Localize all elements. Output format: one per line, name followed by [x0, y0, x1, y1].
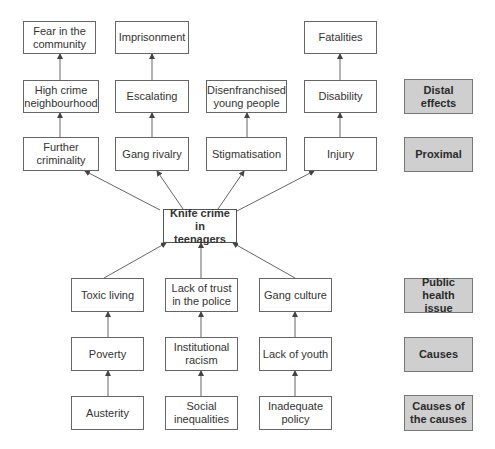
level-label-text: Public health issue — [409, 276, 469, 315]
node-disenfranchised-young-people: Disenfranchised young people — [206, 80, 287, 113]
center-node-label: Knife crime in teenagers — [169, 207, 231, 246]
node-label: Institutional racism — [171, 341, 233, 367]
node-poverty: Poverty — [71, 337, 144, 371]
node-toxic-living: Toxic living — [71, 278, 144, 312]
level-label-causes-of-the-causes: Causes of the causes — [404, 395, 473, 431]
node-gang-rivalry: Gang rivalry — [115, 137, 189, 171]
node-gang-culture: Gang culture — [259, 278, 332, 312]
node-label: Fear in the community — [24, 25, 95, 51]
node-escalating: Escalating — [115, 80, 189, 113]
node-further-criminality: Further criminality — [23, 137, 99, 171]
level-label-text: Distal effects — [405, 84, 472, 110]
node-label: Lack of trust in the police — [171, 282, 233, 308]
node-lack-of-trust-in-the-police: Lack of trust in the police — [165, 278, 238, 312]
node-institutional-racism: Institutional racism — [165, 337, 238, 371]
node-knife-crime-in-teenagers: Knife crime in teenagers — [163, 209, 237, 243]
level-label-distal-effects: Distal effects — [404, 79, 473, 114]
node-social-inequalities: Social inequalities — [165, 396, 238, 430]
node-injury: Injury — [304, 137, 377, 171]
level-label-causes: Causes — [404, 337, 473, 372]
level-label-proximal: Proximal — [404, 137, 473, 172]
node-label: Further criminality — [33, 141, 89, 167]
level-label-text: Proximal — [415, 148, 461, 161]
node-disability: Disability — [304, 80, 377, 113]
node-label: Toxic living — [81, 289, 134, 302]
node-fatalities: Fatalities — [304, 21, 377, 54]
node-label: Inadequate policy — [265, 400, 327, 426]
node-fear-in-the-community: Fear in the community — [23, 21, 96, 54]
node-label: Social inequalities — [171, 400, 233, 426]
node-lack-of-youth: Lack of youth — [259, 337, 332, 371]
node-inadequate-policy: Inadequate policy — [259, 396, 332, 430]
node-label: Disability — [318, 90, 362, 103]
connector-arrows — [0, 0, 495, 449]
node-imprisonment: Imprisonment — [115, 21, 189, 54]
node-label: Stigmatisation — [212, 148, 281, 161]
node-label: Imprisonment — [119, 31, 186, 44]
node-label: Injury — [327, 148, 354, 161]
node-label: Gang culture — [264, 289, 327, 302]
node-label: Poverty — [89, 348, 126, 361]
level-label-public-health-issue: Public health issue — [404, 278, 473, 313]
node-label: Gang rivalry — [122, 148, 181, 161]
level-label-text: Causes of the causes — [409, 400, 469, 426]
node-stigmatisation: Stigmatisation — [206, 137, 287, 171]
node-label: Escalating — [127, 90, 178, 103]
node-austerity: Austerity — [71, 396, 144, 430]
node-label: Austerity — [86, 407, 129, 420]
node-high-crime-neighbourhood: High crime neighbourhood — [23, 80, 99, 113]
node-label: High crime neighbourhood — [24, 84, 98, 110]
node-label: Disenfranchised young people — [207, 84, 286, 110]
node-label: Fatalities — [318, 31, 362, 44]
level-label-text: Causes — [419, 348, 458, 361]
node-label: Lack of youth — [263, 348, 328, 361]
